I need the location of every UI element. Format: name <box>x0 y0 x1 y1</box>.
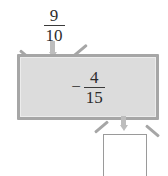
arrow-head <box>120 125 128 131</box>
input-value: 9 10 <box>0 7 108 44</box>
input-numerator: 9 <box>48 7 61 25</box>
operation-label: − 4 15 <box>17 54 159 120</box>
operation-sign: − <box>71 77 81 97</box>
input-fraction: 9 10 <box>44 7 65 44</box>
arrow-shaft <box>50 41 55 52</box>
answer-box[interactable] <box>103 134 147 176</box>
notch-bottom-left-icon <box>94 120 109 133</box>
function-machine-diagram: 9 10 − 4 15 <box>0 0 168 176</box>
operation-numerator: 4 <box>88 69 101 87</box>
output-arrow-down-icon <box>119 116 128 131</box>
notch-bottom-right-icon <box>145 124 160 137</box>
arrow-shaft <box>121 116 126 125</box>
operation-denominator: 15 <box>84 88 105 106</box>
operation-fraction: 4 15 <box>84 69 105 106</box>
